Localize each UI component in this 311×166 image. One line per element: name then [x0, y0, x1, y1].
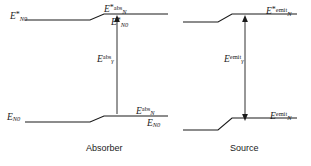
- level-label-absorber-excited-ground: E*N0: [10, 11, 27, 22]
- level-label-absorber-excited-abs: E*absN: [104, 4, 127, 15]
- level-label-absorber-excited-ground-right: E*N0: [111, 17, 128, 28]
- emission-arrow: [242, 15, 248, 121]
- level-label-source-excited-emit: E*emitN: [266, 6, 291, 17]
- level-label-absorber-ground-N0-right: EN0: [147, 119, 160, 129]
- level-label-source-ground-emit: EemitN: [270, 111, 291, 122]
- transition-label-absorption-photon: Eabsγ: [97, 54, 114, 65]
- absorption-arrow: [114, 15, 120, 114]
- diagram-lines: [0, 0, 311, 166]
- energy-level-diagram: E*N0 E*absN E*N0 E*emitN EN0 EabsN EN0 E…: [0, 0, 311, 166]
- level-label-absorber-ground-N0: EN0: [7, 113, 20, 123]
- absorber-upper-level-line: [25, 14, 168, 20]
- level-label-absorber-ground-abs: EabsN: [136, 106, 155, 117]
- caption-source: Source: [230, 143, 259, 153]
- transition-label-emission-photon: Eemitγ: [224, 54, 244, 65]
- caption-absorber: Absorber: [86, 143, 123, 153]
